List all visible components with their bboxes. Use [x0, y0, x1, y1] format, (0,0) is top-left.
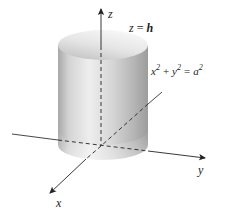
cylinder-diagram: [0, 0, 227, 213]
eq-y-exp: 2: [177, 63, 181, 72]
x-axis-label: x: [56, 197, 61, 209]
y-axis-back: [12, 134, 58, 140]
cylinder: [58, 30, 148, 160]
z-axis-label: z: [108, 8, 113, 20]
top-plane-lhs: z: [129, 21, 134, 35]
surface-equation-label: x2+y2=a2: [151, 66, 203, 77]
y-axis: [148, 151, 205, 158]
y-axis-label: y: [198, 164, 203, 176]
top-plane-rhs: h: [146, 21, 153, 35]
eq-x-exp: 2: [156, 63, 160, 72]
top-plane-equals: =: [137, 21, 144, 35]
x-axis: [50, 159, 86, 193]
x-axis-back: [148, 92, 162, 104]
cylinder-top-face: [58, 30, 148, 60]
top-plane-label: z=h: [129, 22, 153, 34]
eq-equals: =: [184, 65, 190, 77]
eq-a-exp: 2: [199, 63, 203, 72]
eq-plus: +: [163, 65, 169, 77]
